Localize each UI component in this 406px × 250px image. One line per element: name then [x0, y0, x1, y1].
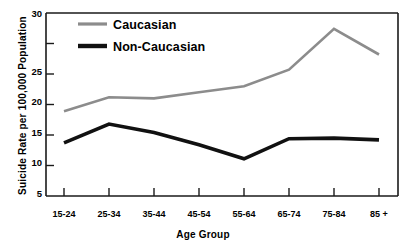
axis-frame [46, 13, 398, 196]
chart-figure: Suicide Rate per 100,000 Population 5 10… [0, 0, 406, 250]
series-line-non-caucasian [64, 124, 379, 159]
y-tick-marks [46, 44, 54, 166]
series-line-caucasian [64, 29, 379, 111]
plot-area [0, 0, 406, 250]
x-tick-marks [64, 188, 379, 196]
